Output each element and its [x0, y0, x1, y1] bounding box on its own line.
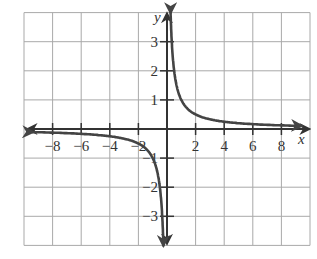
y-tick-label: −3 — [142, 208, 158, 224]
axes — [28, 14, 309, 244]
y-tick-label: −2 — [142, 179, 158, 195]
x-axis-label: x — [297, 131, 305, 147]
y-tick-label: 3 — [151, 34, 159, 50]
x-tick-label: −8 — [45, 138, 61, 154]
x-tick-label: 2 — [192, 138, 200, 154]
x-tick-label: 8 — [278, 138, 286, 154]
x-tick-label: −6 — [73, 138, 89, 154]
function-graph: −8−6−4−22468321−1−2−3 x y — [0, 0, 317, 259]
y-axis-label: y — [152, 9, 161, 25]
x-tick-label: 4 — [220, 138, 228, 154]
x-tick-label: 6 — [249, 138, 257, 154]
x-tick-label: −4 — [102, 138, 118, 154]
y-tick-label: 2 — [151, 63, 159, 79]
y-tick-label: 1 — [151, 92, 159, 108]
